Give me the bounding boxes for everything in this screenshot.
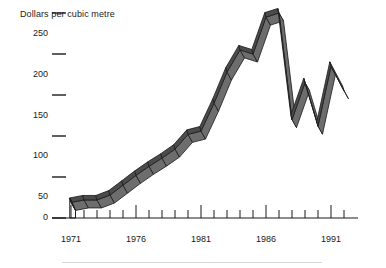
y-axis-ticks: [52, 13, 66, 218]
data-ribbon: [70, 9, 349, 219]
footer-divider: [62, 262, 322, 263]
chart-figure: Dollars per cubic metre 250 200 150 100 …: [0, 0, 386, 268]
plot-area: [0, 0, 386, 268]
